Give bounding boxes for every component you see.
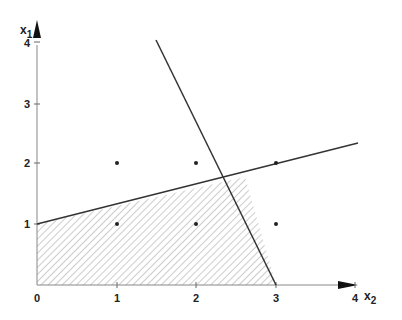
x2-tick-4: 4 (352, 292, 359, 304)
x2-tick-0: 0 (34, 292, 40, 304)
point-2-2 (194, 161, 198, 165)
x2-axis-label: x2 (364, 289, 377, 306)
point-2-1 (194, 222, 198, 226)
x1-axis-label: x1 (20, 23, 33, 40)
x1-tick-1: 1 (24, 218, 30, 230)
x2-tick-2: 2 (193, 292, 199, 304)
x1-axis-arrow-icon (33, 20, 41, 38)
x1-tick-2: 2 (24, 157, 30, 169)
point-3-2 (274, 161, 278, 165)
point-1-2 (115, 161, 119, 165)
x1-tick-3: 3 (24, 98, 30, 110)
x2-tick-3: 3 (273, 292, 279, 304)
point-3-1 (274, 222, 278, 226)
point-1-1 (115, 222, 119, 226)
lp-diagram: 0 1 2 3 4 1 2 3 4 x2 x1 (0, 0, 402, 320)
x2-tick-1: 1 (114, 292, 120, 304)
